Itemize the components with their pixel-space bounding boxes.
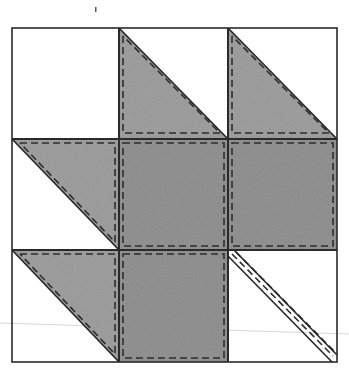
square-r1c2 (228, 139, 337, 250)
square-r1c1 (119, 139, 228, 250)
stem-edge-upper (234, 250, 337, 355)
scan-mark (95, 7, 97, 12)
square-r2c1 (119, 250, 228, 362)
quilt-block-diagram (0, 0, 349, 370)
seam-stem (232, 254, 333, 356)
stem-edge-lower (228, 256, 332, 362)
